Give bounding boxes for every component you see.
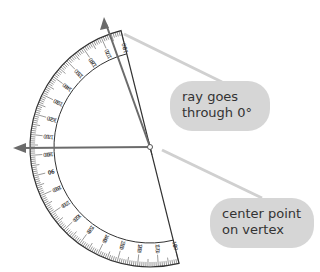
callout-line: ray goes [182,89,258,105]
callout-line: on vertex [222,222,302,238]
leader-line-center [162,150,262,198]
protractor: 1800170101602015030140401305012060110701… [30,31,179,267]
arrowhead-icon [100,17,109,30]
vertex-point [148,145,153,150]
leader-line-ray [124,34,222,82]
inner-scale-label: 70 [45,134,52,141]
arrowhead-icon [13,143,26,153]
inner-scale-label: 80 [45,152,52,158]
inner-scale-label: 160 [136,243,143,253]
callout-line: through 0° [182,105,258,121]
callout-ray-through-zero: ray goes through 0° [170,81,270,131]
callout-line: center point [222,206,302,222]
inner-scale-label: 170 [154,244,161,254]
callout-center-point: center point on vertex [210,198,314,248]
